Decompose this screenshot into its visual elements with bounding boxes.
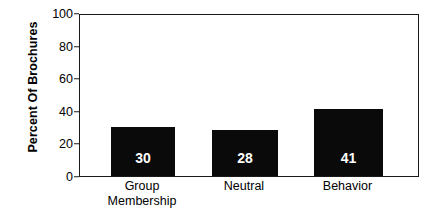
bar-chart: Percent Of Brochures 020406080100 302841… — [0, 0, 430, 218]
x-axis-label-line: Membership — [72, 194, 212, 209]
bar: 30 — [111, 127, 175, 176]
x-axis-category-label: Behavior — [278, 179, 418, 194]
y-axis-ticks: 020406080100 — [0, 14, 79, 177]
bar: 28 — [212, 130, 278, 176]
y-tick-label: 40 — [59, 105, 73, 119]
plot-area: 302841 — [79, 14, 419, 177]
bar-value-label: 30 — [111, 150, 175, 166]
y-tick-label: 60 — [59, 72, 73, 86]
bar-value-label: 41 — [314, 150, 383, 166]
x-axis-labels: GroupMembershipNeutralBehavior — [79, 179, 419, 218]
y-tick-label: 20 — [59, 137, 73, 151]
y-tick-label: 80 — [59, 40, 73, 54]
bar-value-label: 28 — [212, 150, 278, 166]
bar: 41 — [314, 109, 383, 176]
x-axis-label-line: Behavior — [278, 179, 418, 194]
y-tick-label: 100 — [52, 7, 73, 21]
